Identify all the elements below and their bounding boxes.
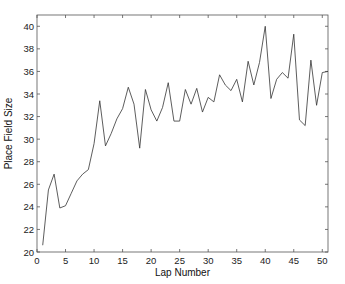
data-series: [43, 26, 328, 245]
x-tick-label: 35: [231, 255, 242, 266]
x-tick-label: 40: [260, 255, 271, 266]
y-tick-label: 32: [23, 111, 34, 122]
y-axis-ticks: 2022242628303234363840: [23, 21, 328, 258]
x-tick-label: 5: [63, 255, 68, 266]
x-tick-label: 15: [117, 255, 128, 266]
x-axis-ticks: 05101520253035404550: [34, 15, 327, 266]
y-axis-label: Place Field Size: [3, 97, 14, 169]
line-chart: 05101520253035404550 2022242628303234363…: [0, 0, 345, 284]
x-tick-label: 30: [203, 255, 214, 266]
y-tick-label: 26: [23, 179, 34, 190]
y-tick-label: 30: [23, 134, 34, 145]
x-tick-label: 0: [34, 255, 39, 266]
plot-frame: [37, 15, 328, 252]
x-tick-label: 45: [288, 255, 299, 266]
x-tick-label: 25: [174, 255, 185, 266]
y-tick-label: 38: [23, 43, 34, 54]
y-tick-label: 24: [23, 201, 34, 212]
series-line: [43, 26, 328, 245]
y-tick-label: 36: [23, 66, 34, 77]
y-tick-label: 40: [23, 21, 34, 32]
plot-border: [37, 15, 328, 252]
x-axis-label: Lap Number: [155, 267, 211, 278]
y-tick-label: 34: [23, 89, 34, 100]
x-tick-label: 10: [89, 255, 100, 266]
x-tick-label: 50: [317, 255, 328, 266]
y-tick-label: 22: [23, 224, 34, 235]
y-tick-label: 20: [23, 247, 34, 258]
x-tick-label: 20: [146, 255, 157, 266]
y-tick-label: 28: [23, 156, 34, 167]
